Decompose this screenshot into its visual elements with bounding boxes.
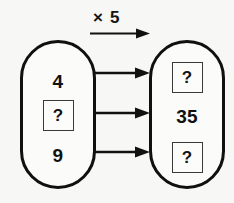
input-value-bottom: 9 [20, 146, 96, 165]
question-box[interactable]: ? [43, 100, 74, 131]
mapping-arrow-1 [93, 68, 150, 79]
output-unknown-top[interactable]: ? [149, 62, 225, 93]
output-value-middle: 35 [149, 107, 225, 126]
input-value-top: 4 [20, 72, 96, 91]
output-unknown-bottom[interactable]: ? [149, 142, 225, 173]
input-unknown-middle[interactable]: ? [20, 100, 96, 131]
question-box[interactable]: ? [172, 62, 203, 93]
question-box[interactable]: ? [172, 142, 203, 173]
mapping-arrow-2 [93, 108, 150, 119]
operation-arrow [90, 29, 150, 39]
mapping-diagram: × 5 4 ? 9 ? 35 ? [0, 0, 234, 203]
mapping-arrow-3 [93, 147, 150, 158]
